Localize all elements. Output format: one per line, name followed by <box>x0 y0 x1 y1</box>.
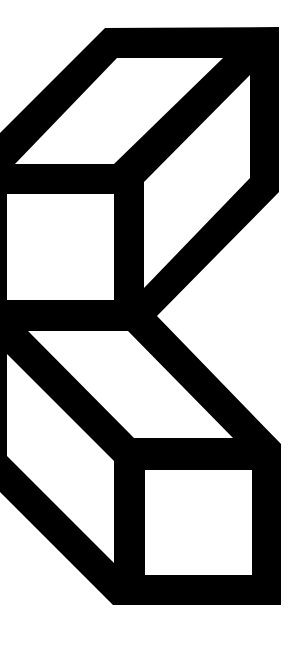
upper-cube-front-face <box>7 194 114 300</box>
lower-cube-front-face <box>145 470 252 575</box>
stacked-cubes-graphic <box>0 0 302 647</box>
